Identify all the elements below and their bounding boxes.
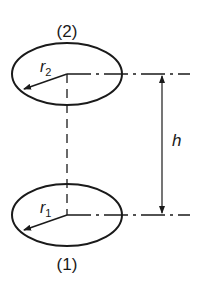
height-dimension: h [162,76,181,213]
two-section-diagram: r2 (2) r1 (1) h [0,0,201,288]
radius-1-label: r1 [40,199,51,219]
section-2: r2 (2) [12,22,190,105]
section-1: r1 (1) [12,184,190,274]
height-label: h [172,131,181,150]
radius-2-label: r2 [40,58,51,78]
section-2-label: (2) [57,22,78,41]
section-1-label: (1) [57,255,78,274]
